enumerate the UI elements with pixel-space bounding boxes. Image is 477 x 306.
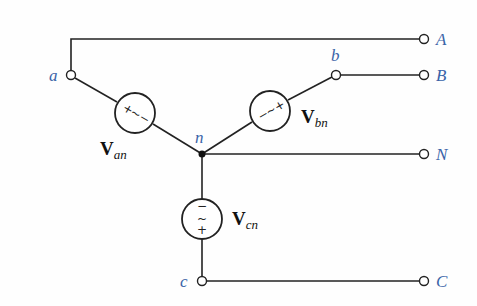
source-vcn-plus: + xyxy=(197,223,207,237)
source-van-label: Van xyxy=(100,138,127,162)
terminal-B-label: B xyxy=(436,66,447,85)
source-vbn: − ~ + xyxy=(250,91,290,131)
wire-n-to-vbn xyxy=(202,122,252,154)
source-vcn-minus: − xyxy=(197,199,207,213)
wire-a-to-A xyxy=(71,39,420,71)
terminal-C-label: C xyxy=(436,272,448,291)
wire-vbn-to-b xyxy=(288,77,332,100)
node-c-label: c xyxy=(180,272,188,291)
terminal-A-label: A xyxy=(435,30,447,49)
source-vbn-label-main: V xyxy=(301,106,315,127)
source-vcn: − ~ + xyxy=(182,199,222,239)
circuit-svg: + ~ − − ~ + − ~ + xyxy=(0,0,477,306)
source-vbn-label: Vbn xyxy=(301,106,328,130)
node-a-terminal xyxy=(67,71,76,80)
terminal-B xyxy=(420,71,429,80)
source-vcn-label-main: V xyxy=(232,208,246,229)
source-van-label-main: V xyxy=(100,138,114,159)
node-b-label: b xyxy=(331,46,340,65)
circuit-diagram: + ~ − − ~ + − ~ + xyxy=(0,0,477,306)
source-van-label-sub: an xyxy=(114,147,127,162)
node-a-label: a xyxy=(49,66,58,85)
terminal-N-label: N xyxy=(435,145,449,164)
terminal-A xyxy=(420,35,429,44)
source-vcn-label-sub: cn xyxy=(246,217,258,232)
node-c-terminal xyxy=(198,277,207,286)
terminal-C xyxy=(420,277,429,286)
neutral-junction-dot xyxy=(199,151,206,158)
source-vcn-label: Vcn xyxy=(232,208,258,232)
node-n-label: n xyxy=(195,128,204,147)
source-vbn-label-sub: bn xyxy=(315,115,328,130)
node-b-terminal xyxy=(332,71,341,80)
source-van: + ~ − xyxy=(115,93,155,133)
wire-a-to-van xyxy=(75,78,117,102)
terminal-N xyxy=(420,150,429,159)
